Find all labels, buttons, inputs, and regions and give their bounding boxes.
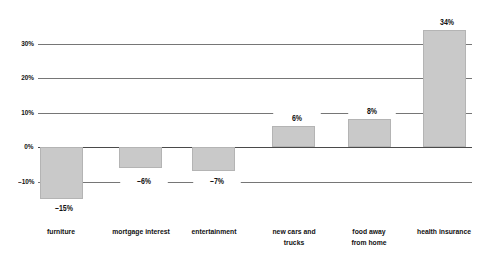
x-axis-category-label: mortgage interest (103, 226, 178, 237)
x-axis-category-label: new cars and trucks (256, 226, 331, 248)
bar-value-label: –7% (193, 176, 241, 186)
gridline-0 (38, 147, 472, 148)
y-tick-text: –10% (18, 177, 34, 186)
y-tick-text: 20% (21, 73, 34, 82)
y-tick-text: 30% (21, 39, 34, 48)
gridline-10 (38, 113, 472, 114)
y-tick-text: 0% (25, 142, 34, 151)
bar-value-label: 8% (348, 106, 396, 116)
bar[interactable] (192, 147, 235, 171)
bar[interactable] (272, 126, 315, 147)
x-axis-category-label: food away from home (332, 226, 407, 248)
bar[interactable] (348, 119, 391, 147)
bar[interactable] (119, 147, 162, 168)
bar-value-label: 34% (423, 17, 471, 27)
gridline-30 (38, 44, 472, 45)
x-axis-category-label: furniture (24, 226, 99, 237)
bar-value-label: –6% (120, 176, 168, 186)
plot-area: 30%20%10%0%–10%–15%furniture–6%mortgage … (0, 0, 489, 260)
bar[interactable] (423, 30, 466, 147)
y-tick-text: 10% (21, 108, 34, 117)
gridline-10-neg (38, 182, 472, 183)
bar-chart: 30%20%10%0%–10%–15%furniture–6%mortgage … (0, 0, 489, 260)
bar[interactable] (40, 147, 83, 199)
bar-value-label: –15% (40, 203, 88, 213)
gridline-20 (38, 78, 472, 79)
x-axis-category-label: health insurance (407, 226, 482, 237)
x-axis-category-label: entertainment (176, 226, 251, 237)
bar-value-label: 6% (273, 113, 321, 123)
